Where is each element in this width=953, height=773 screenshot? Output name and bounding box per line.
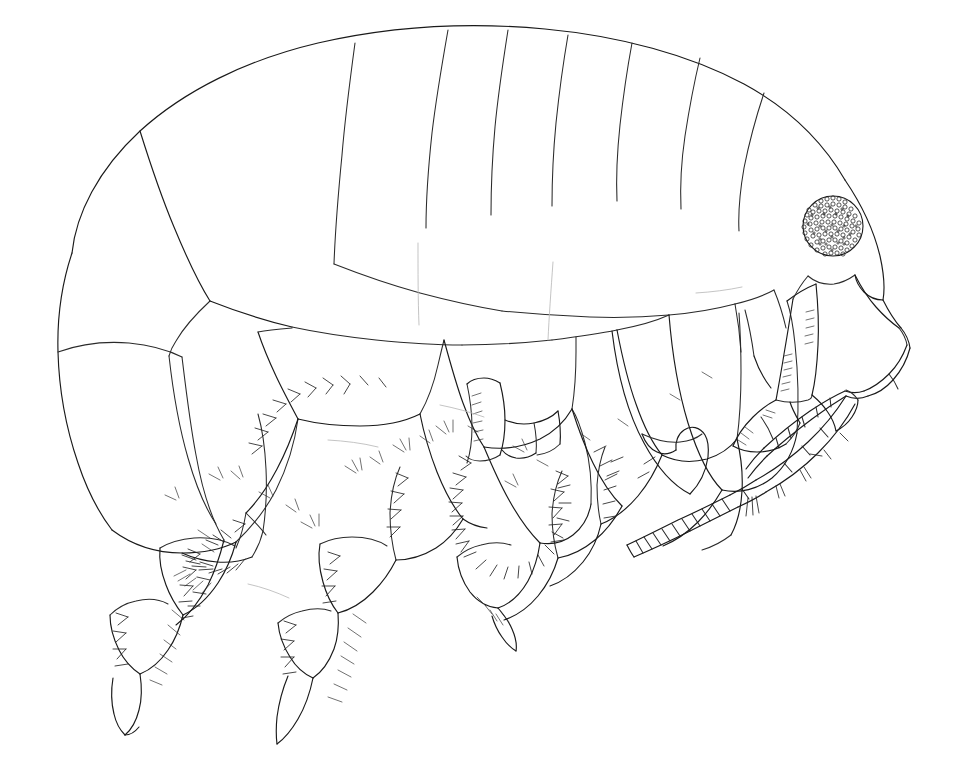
- mouthparts: [733, 284, 858, 452]
- setae-cluster-lower-center: [165, 420, 527, 528]
- antenna-1: [746, 275, 910, 478]
- gill-lobe: [612, 331, 708, 494]
- pereopod-mid-lateral-setae: [328, 614, 366, 702]
- coxal-plates: [258, 301, 798, 491]
- pereopod-front-setae: [603, 457, 655, 518]
- faint-internal-lines: [248, 243, 742, 598]
- compound-eye: [802, 196, 863, 256]
- pereopod-front: [550, 447, 662, 586]
- body-ventral-margins: [292, 264, 774, 345]
- antenna-2: [627, 396, 855, 557]
- body-dorsal-outline: [72, 26, 845, 253]
- pereopod-anterior: [504, 409, 622, 620]
- antenna-2-setae: [746, 433, 848, 516]
- pleopod-setae-row: [249, 376, 386, 454]
- head-ventral-detail: [735, 290, 786, 388]
- gnathopod-2: [449, 409, 591, 651]
- amphipod-illustration: [0, 0, 953, 773]
- accessory-appendages: [463, 378, 505, 528]
- pereopod-rear-setae: [182, 562, 213, 618]
- pereopod-mid: [276, 414, 463, 744]
- figure-canvas: [0, 0, 953, 773]
- body-segment-sutures: [334, 30, 764, 264]
- pereopod-mid-setae: [281, 473, 408, 674]
- inner-palp: [502, 411, 560, 458]
- gnathopod-2-setae: [449, 456, 571, 579]
- pereopod-posterior: [110, 419, 298, 735]
